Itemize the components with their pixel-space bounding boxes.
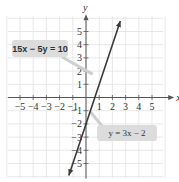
y-tick-label: 3 bbox=[77, 52, 82, 63]
x-tick-label: −5 bbox=[15, 101, 26, 112]
x-tick-label: 4 bbox=[136, 101, 141, 112]
coordinate-plane: xy−5−4−3−2−11234554321−1−2−3−4−5 bbox=[0, 0, 179, 182]
label-slope-intercept-form: y = 3x − 2 bbox=[97, 125, 157, 141]
label-standard-form: 15x − 5y = 10 bbox=[12, 40, 68, 57]
y-tick-label: 4 bbox=[77, 39, 82, 50]
y-tick-label: −1 bbox=[71, 105, 82, 116]
y-axis-label: y bbox=[82, 2, 88, 13]
x-axis-label: x bbox=[175, 92, 179, 103]
x-tick-label: −2 bbox=[54, 101, 65, 112]
line-arrow-up-icon bbox=[116, 21, 121, 28]
x-tick-label: 2 bbox=[110, 101, 115, 112]
x-axis-arrow-icon bbox=[168, 95, 174, 100]
graph-figure: xy−5−4−3−2−11234554321−1−2−3−4−5 15x − 5… bbox=[0, 0, 179, 182]
x-tick-label: −4 bbox=[28, 101, 39, 112]
x-tick-label: −3 bbox=[41, 101, 52, 112]
y-tick-label: 5 bbox=[77, 26, 82, 37]
x-tick-label: 3 bbox=[123, 101, 128, 112]
x-tick-label: 1 bbox=[97, 101, 102, 112]
y-tick-label: 1 bbox=[77, 79, 82, 90]
y-tick-label: −2 bbox=[71, 118, 82, 129]
x-tick-label: 5 bbox=[150, 101, 155, 112]
y-axis-arrow-icon bbox=[84, 14, 89, 20]
